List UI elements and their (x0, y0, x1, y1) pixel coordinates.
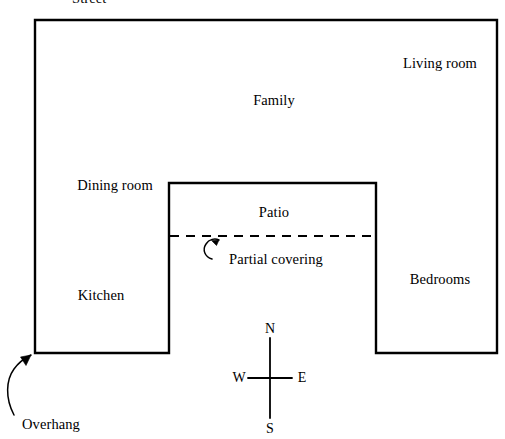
compass-label-north: N (265, 321, 275, 337)
overhang-arrow (8, 355, 31, 415)
room-label-kitchen: Kitchen (78, 288, 125, 303)
room-label-living-room: Living room (403, 56, 477, 71)
room-label-patio: Patio (259, 205, 289, 220)
floor-plan-diagram: Street Living room Family Dining room Pa… (0, 0, 505, 439)
compass-label-east: E (298, 370, 307, 386)
partial-covering-label: Partial covering (229, 252, 323, 267)
compass-rose (248, 338, 292, 418)
room-label-dining-room: Dining room (77, 178, 153, 193)
room-label-bedrooms: Bedrooms (410, 272, 470, 287)
compass-label-south: S (266, 421, 274, 437)
overhang-label: Overhang (22, 417, 80, 432)
street-label: Street (72, 0, 106, 6)
compass-label-west: W (232, 370, 245, 386)
room-label-family: Family (253, 93, 295, 108)
partial-covering-arrow (204, 239, 219, 259)
